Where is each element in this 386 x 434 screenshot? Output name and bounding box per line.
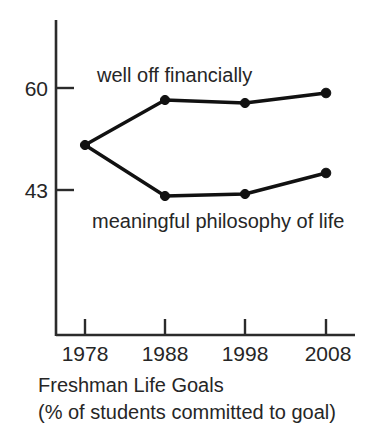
chart-container: 60 43 1978 1988 1998 2008 well off finan… <box>0 0 386 434</box>
x-axis-label-1988: 1988 <box>142 342 189 365</box>
data-point-philosophy-2008 <box>321 168 331 178</box>
data-point-1978 <box>80 140 89 149</box>
caption-subtitle: (% of students committed to goal) <box>38 401 336 423</box>
series-line-meaningful-philosophy <box>85 145 326 196</box>
y-axis-label-60: 60 <box>25 77 48 100</box>
line-chart-svg: 60 43 1978 1988 1998 2008 well off finan… <box>0 0 386 434</box>
series-annotation-meaningful-philosophy: meaningful philosophy of life <box>92 210 344 232</box>
x-axis-label-1998: 1998 <box>222 342 269 365</box>
caption-title: Freshman Life Goals <box>38 374 224 396</box>
series-annotation-well-off-financially: well off financially <box>96 64 252 86</box>
x-axis-label-1978: 1978 <box>62 342 109 365</box>
x-axis-label-2008: 2008 <box>305 342 352 365</box>
data-point-philosophy-1988 <box>160 191 169 200</box>
data-point-well-off-1998 <box>240 98 249 107</box>
y-axis-label-43: 43 <box>25 179 48 202</box>
data-point-well-off-2008 <box>321 88 331 98</box>
series-line-well-off-financially <box>85 93 326 145</box>
data-point-philosophy-1998 <box>240 189 249 198</box>
data-point-well-off-1988 <box>160 95 169 104</box>
